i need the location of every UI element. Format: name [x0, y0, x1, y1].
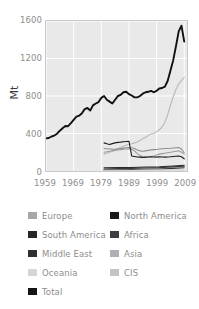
legend-item-label: Total: [42, 287, 62, 297]
legend-column-right: North AmericaAfricaAsiaCIS: [110, 206, 196, 282]
y-axis-tick-label: 800: [2, 92, 42, 101]
legend-item[interactable]: Oceania: [28, 263, 110, 282]
plot-area: [45, 20, 188, 172]
legend-swatch-icon: [28, 231, 37, 238]
figure: Mt 040080012001600 195919691979198919992…: [0, 0, 199, 309]
x-axis-tick-label: 1959: [30, 178, 60, 188]
legend-swatch-icon: [110, 250, 119, 257]
legend-swatch-icon: [110, 231, 119, 238]
series-line: [46, 26, 184, 139]
legend-item-label: Africa: [124, 230, 149, 240]
legend-item[interactable]: North America: [110, 206, 196, 225]
legend-swatch-icon: [110, 212, 119, 219]
y-axis-tick-label: 0: [2, 168, 42, 177]
legend-item-label: South America: [42, 230, 106, 240]
legend-swatch-icon: [28, 288, 37, 295]
legend-swatch-icon: [28, 212, 37, 219]
plot-wrapper: Mt 040080012001600 195919691979198919992…: [0, 0, 199, 200]
chart-canvas: [46, 21, 187, 171]
legend-item-label: Europe: [42, 211, 73, 221]
y-axis-tick-label: 400: [2, 130, 42, 139]
legend-item-label: Asia: [124, 249, 142, 259]
legend-item-label: CIS: [124, 268, 138, 278]
legend-item[interactable]: Total: [28, 282, 110, 301]
y-axis-tick-label: 1200: [2, 54, 42, 63]
legend-item-label: Middle East: [42, 249, 92, 259]
legend-swatch-icon: [28, 250, 37, 257]
legend-item[interactable]: CIS: [110, 263, 196, 282]
legend-item[interactable]: Middle East: [28, 244, 110, 263]
legend-swatch-icon: [28, 269, 37, 276]
x-axis-tick-label: 1979: [86, 178, 116, 188]
legend-column-left: EuropeSouth AmericaMiddle EastOceaniaTot…: [28, 206, 110, 301]
data-series-group: [46, 26, 184, 171]
legend: EuropeSouth AmericaMiddle EastOceaniaTot…: [0, 206, 199, 309]
x-axis-tick-label: 1999: [142, 178, 172, 188]
legend-item[interactable]: Europe: [28, 206, 110, 225]
x-axis-tick-label: 1989: [114, 178, 144, 188]
legend-item[interactable]: South America: [28, 225, 110, 244]
x-axis-tick-label: 2009: [170, 178, 199, 188]
x-axis-tick-label: 1969: [58, 178, 88, 188]
legend-item-label: Oceania: [42, 268, 77, 278]
y-axis-tick-label: 1600: [2, 16, 42, 25]
legend-item[interactable]: Africa: [110, 225, 196, 244]
legend-swatch-icon: [110, 269, 119, 276]
y-axis-tick-labels: 040080012001600: [0, 0, 42, 200]
legend-item[interactable]: Asia: [110, 244, 196, 263]
legend-item-label: North America: [124, 211, 187, 221]
